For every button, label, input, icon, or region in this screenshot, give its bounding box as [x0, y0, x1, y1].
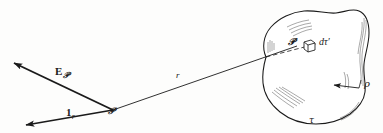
source-point-label: 𝒫′ — [288, 37, 298, 47]
volume-element-cube — [304, 40, 315, 52]
electric-field-symbol: E — [55, 65, 62, 77]
charge-density-label: ρ — [364, 79, 370, 89]
volume-blob — [263, 10, 369, 124]
unit-vector-subscript: r — [72, 112, 75, 121]
unit-vector-symbol: 1 — [66, 106, 72, 118]
volume-element-label: dτ′ — [319, 37, 330, 47]
field-point-label: 𝒫 — [108, 107, 114, 116]
figure-canvas: E𝒫 1r 𝒫 r 𝒫′ dτ′ ρ τ — [0, 0, 383, 133]
distance-label: r — [176, 71, 180, 80]
volume-outline — [263, 10, 369, 124]
electric-field-label: E𝒫 — [55, 66, 69, 80]
volume-region-label: τ — [309, 116, 314, 125]
unit-vector-label: 1r — [66, 107, 75, 121]
electric-field-subscript: 𝒫 — [63, 70, 69, 80]
